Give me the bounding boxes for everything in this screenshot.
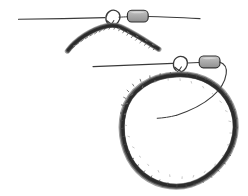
knot-diagram-illustration: Knot tying instruction diagram Two-step … xyxy=(0,0,248,196)
top-rope-arc xyxy=(68,25,159,52)
step-top-group xyxy=(19,10,201,52)
bottom-rope-loop xyxy=(120,72,238,188)
top-bead-stopper xyxy=(127,10,148,22)
top-standing-line xyxy=(19,17,201,20)
step-bottom-group xyxy=(93,56,238,188)
bottom-working-end-tail xyxy=(157,62,226,118)
bottom-overhand-loop-icon xyxy=(173,56,187,71)
bottom-bead-stopper xyxy=(199,56,220,68)
knot-diagram-canvas xyxy=(0,0,248,196)
bottom-standing-line xyxy=(93,63,199,67)
